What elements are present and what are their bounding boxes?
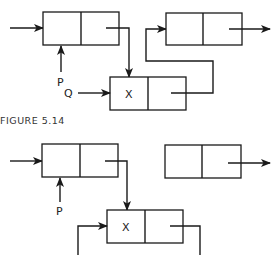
pointer-p-label: P bbox=[56, 205, 63, 218]
node-b bbox=[165, 145, 241, 178]
pointer-q-label: Q bbox=[64, 87, 73, 100]
figure-caption: FIGURE 5.14 bbox=[0, 115, 65, 126]
pointer-p-label: P bbox=[57, 76, 64, 89]
figure-bottom: P X bbox=[10, 144, 270, 255]
linked-list-diagram: P X Q FIGURE 5.14 P bbox=[0, 0, 279, 255]
figure-top: P X Q FIGURE 5.14 bbox=[0, 12, 270, 126]
node-x-value: X bbox=[125, 88, 133, 101]
node-x-incoming-arrow bbox=[78, 226, 107, 255]
node-x-value: X bbox=[122, 221, 130, 234]
